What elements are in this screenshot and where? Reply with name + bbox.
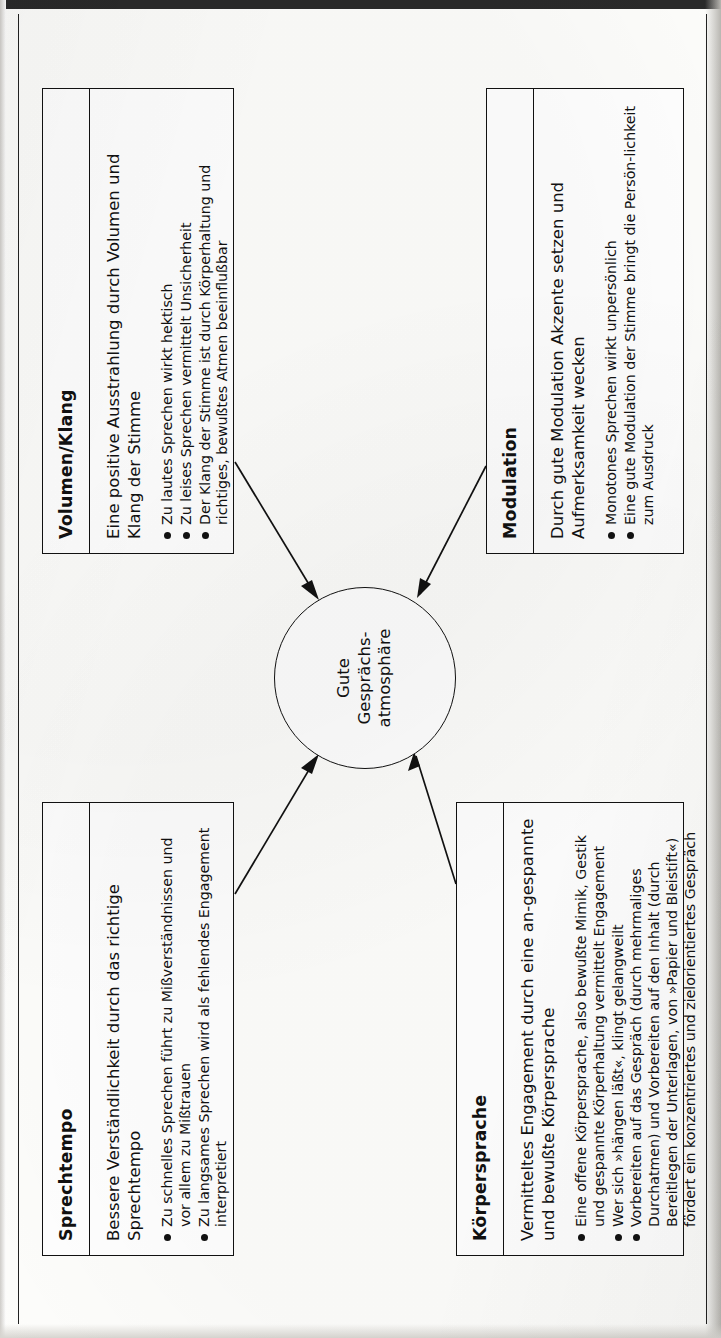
center-node-line-2: Gesprächs- xyxy=(354,632,375,725)
box-koerpersprache-bullets: Eine offene Körpersprache, also bewußte … xyxy=(572,817,699,1241)
scan-edge-bottom xyxy=(0,1324,721,1338)
scanned-page: Sprechtempo Bessere Verständlichkeit dur… xyxy=(0,0,721,1338)
list-item: Zu schnelles Sprechen führt zu Mißverstä… xyxy=(158,817,194,1241)
list-item: Eine gute Modulation der Stimme bringt d… xyxy=(621,103,657,539)
diagram-canvas: Sprechtempo Bessere Verständlichkeit dur… xyxy=(16,24,706,1314)
list-item: Wer sich »hängen läßt«, klingt gelangwei… xyxy=(609,817,627,1241)
box-sprechtempo-body: Bessere Verständlichkeit durch das richt… xyxy=(89,803,233,1255)
scan-edge-right xyxy=(705,0,721,1338)
box-sprechtempo-title: Sprechtempo xyxy=(43,803,90,1255)
box-volumen-klang: Volumen/Klang Eine positive Ausstrahlung… xyxy=(42,88,234,554)
box-koerpersprache-title: Körpersprache xyxy=(457,803,504,1255)
center-node-gute-gespraechsatmosphaere: Gute Gesprächs- atmosphäre xyxy=(274,587,456,769)
page-border-line-right xyxy=(706,14,707,1324)
list-item: Der Klang der Stimme ist durch Körperhal… xyxy=(196,103,232,539)
box-volumen-klang-title: Volumen/Klang xyxy=(43,89,90,553)
box-modulation-bullets: Monotones Sprechen wirkt unpersönlich Ei… xyxy=(602,103,656,539)
center-node-line-1: Gute xyxy=(334,658,355,698)
list-item: Eine offene Körpersprache, also bewußte … xyxy=(572,817,608,1241)
scan-edge-left xyxy=(0,0,6,1338)
box-modulation-body: Durch gute Modulation Akzente setzen und… xyxy=(533,89,683,553)
box-sprechtempo-bullets: Zu schnelles Sprechen führt zu Mißverstä… xyxy=(158,817,230,1241)
box-koerpersprache-body: Vermitteltes Engagement durch eine an-ge… xyxy=(503,803,683,1255)
center-node-line-3: atmosphäre xyxy=(375,629,396,728)
box-sprechtempo-lead: Bessere Verständlichkeit durch das richt… xyxy=(103,817,146,1241)
box-sprechtempo: Sprechtempo Bessere Verständlichkeit dur… xyxy=(42,802,234,1256)
box-koerpersprache-lead: Vermitteltes Engagement durch eine an-ge… xyxy=(517,817,560,1241)
list-item: Vorbereiten auf das Gespräch (durch mehr… xyxy=(628,817,699,1241)
list-item: Monotones Sprechen wirkt unpersönlich xyxy=(602,103,620,539)
scan-edge-top xyxy=(0,0,721,9)
list-item: Zu langsames Sprechen wird als fehlendes… xyxy=(195,817,231,1241)
list-item: Zu lautes Sprechen wirkt hektisch xyxy=(158,103,176,539)
list-item: Zu leises Sprechen vermittelt Unsicherhe… xyxy=(177,103,195,539)
box-koerpersprache: Körpersprache Vermitteltes Engagement du… xyxy=(456,802,684,1256)
box-volumen-klang-bullets: Zu lautes Sprechen wirkt hektisch Zu lei… xyxy=(158,103,231,539)
box-modulation-lead: Durch gute Modulation Akzente setzen und… xyxy=(547,103,590,539)
box-volumen-klang-lead: Eine positive Ausstrahlung durch Volumen… xyxy=(103,103,146,539)
box-modulation-title: Modulation xyxy=(487,89,534,553)
box-volumen-klang-body: Eine positive Ausstrahlung durch Volumen… xyxy=(89,89,233,553)
box-modulation: Modulation Durch gute Modulation Akzente… xyxy=(486,88,684,554)
